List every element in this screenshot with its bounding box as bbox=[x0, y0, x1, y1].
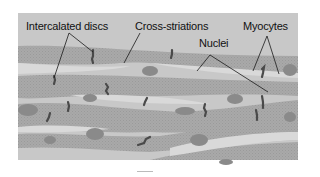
label-myocytes: Myocytes bbox=[243, 20, 288, 32]
label-cross-striations: Cross-striations bbox=[135, 20, 208, 32]
label-nuclei: Nuclei bbox=[199, 37, 228, 49]
label-intercalated-discs: Intercalated discs bbox=[26, 20, 108, 32]
scale-mark bbox=[137, 171, 153, 172]
